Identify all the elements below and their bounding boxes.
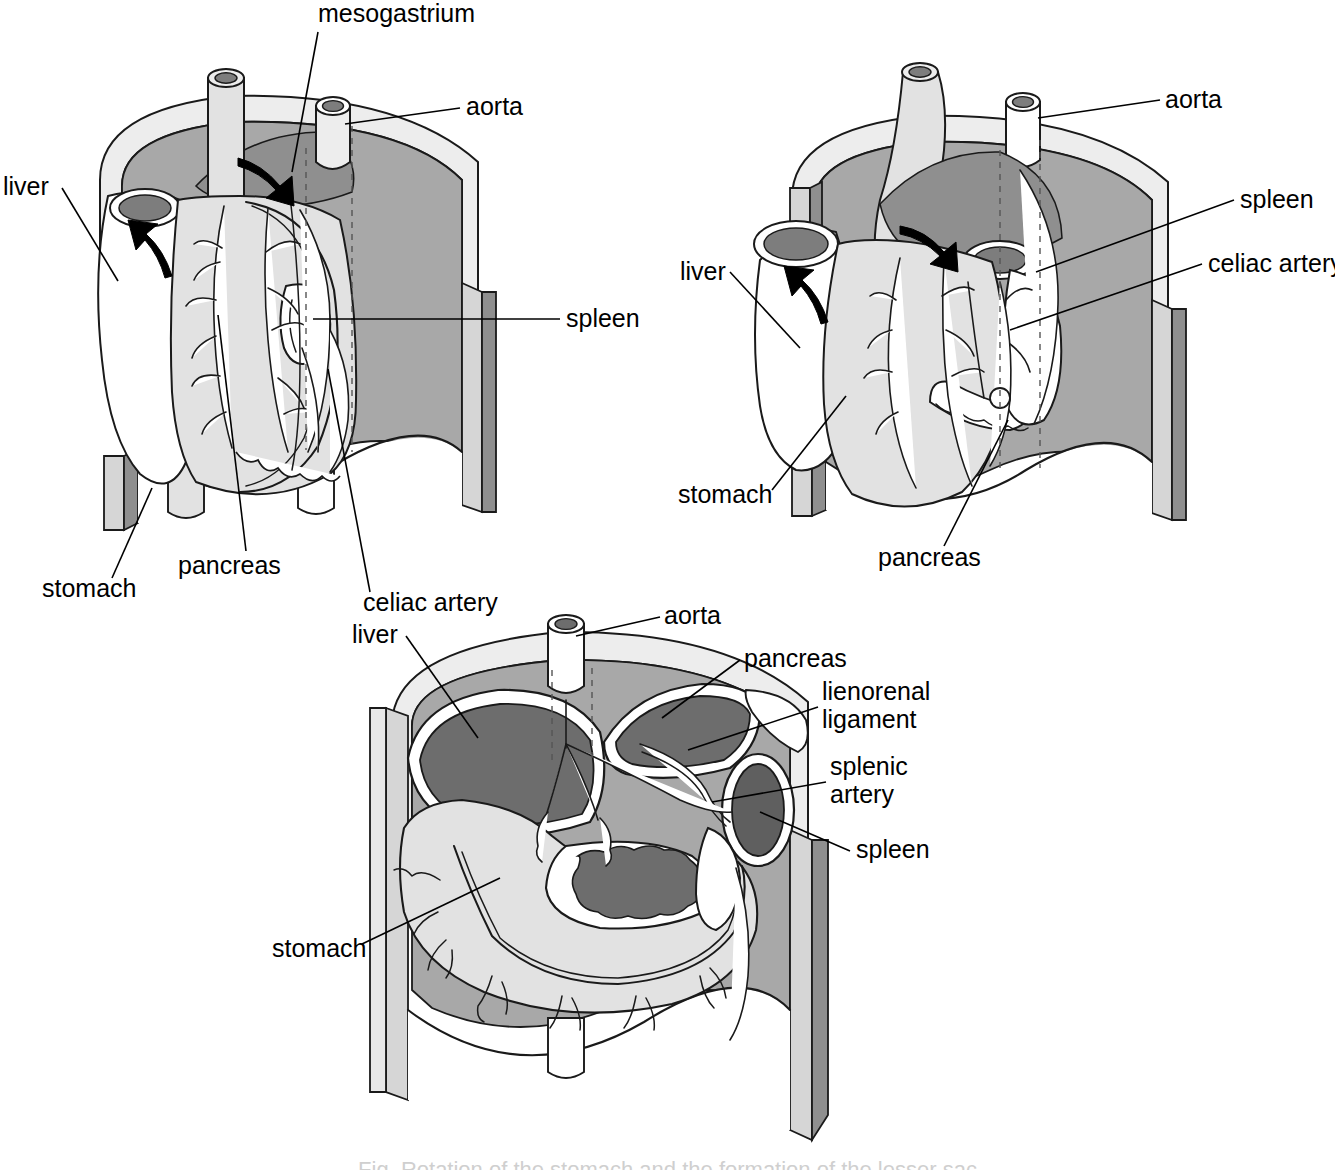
label-stomach: stomach xyxy=(678,480,772,508)
label-lienorenal-line-2: ligament xyxy=(822,705,917,733)
label-aorta: aorta xyxy=(1165,85,1222,113)
aorta-vessel xyxy=(316,97,350,169)
hepatic-vein-opening xyxy=(754,221,838,267)
esophagus-tube xyxy=(208,69,244,203)
panel-top-left: mesogastrium aorta liver spleen pancreas… xyxy=(0,0,660,630)
label-pancreas: pancreas xyxy=(744,644,847,672)
body-wall-right-slab xyxy=(790,830,828,1140)
label-spleen: spleen xyxy=(856,835,930,863)
leader-aorta xyxy=(1038,100,1160,118)
lesser-sac xyxy=(546,842,715,929)
figure-caption-text: Fig. Rotation of the stomach and the for… xyxy=(0,1159,1335,1170)
label-celiac-artery: celiac artery xyxy=(1208,249,1335,277)
label-mesogastrium: mesogastrium xyxy=(318,0,475,27)
label-liver: liver xyxy=(352,620,398,648)
hepatic-vein-opening xyxy=(110,189,180,227)
label-pancreas: pancreas xyxy=(178,551,281,579)
label-liver: liver xyxy=(3,172,49,200)
label-spleen: spleen xyxy=(566,304,640,332)
label-aorta: aorta xyxy=(664,601,721,629)
figure-canvas: mesogastrium aorta liver spleen pancreas… xyxy=(0,0,1335,1170)
label-stomach: stomach xyxy=(272,934,366,962)
aorta-vessel xyxy=(548,615,584,693)
panel-bottom: aorta liver pancreas lienorenal ligament… xyxy=(260,590,1000,1170)
label-splenic-artery-line-2: artery xyxy=(830,780,894,808)
label-liver: liver xyxy=(680,257,726,285)
aorta-vessel xyxy=(1006,93,1040,167)
body-wall-right-slab xyxy=(1152,300,1186,520)
inferior-aorta-stump xyxy=(548,1018,584,1078)
label-lienorenal-line-1: lienorenal xyxy=(822,677,930,705)
label-pancreas: pancreas xyxy=(878,543,981,571)
label-splenic-artery-line-1: splenic xyxy=(830,752,908,780)
label-spleen: spleen xyxy=(1240,185,1314,213)
label-aorta: aorta xyxy=(466,92,523,120)
body-wall-right-slab xyxy=(462,283,496,512)
figure-caption-cropped: Fig. Rotation of the stomach and the for… xyxy=(0,1159,1335,1170)
panel-top-right: aorta spleen celiac artery liver stomach… xyxy=(660,60,1335,620)
label-stomach: stomach xyxy=(42,574,136,602)
